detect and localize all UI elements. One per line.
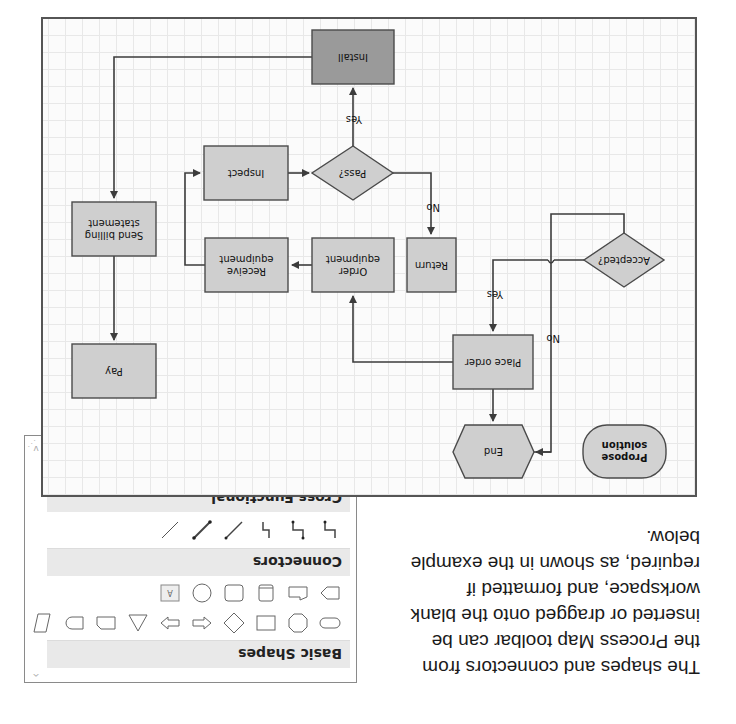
label-propose: Propose solution — [583, 425, 666, 478]
edge-label-pass-yes: Yes — [346, 114, 362, 125]
label-send-billing: Send billing statement — [72, 202, 156, 256]
edge-place-order-equip — [353, 296, 453, 362]
label-inspect: Inspect — [204, 146, 288, 200]
edge-accepted-yes — [493, 260, 584, 331]
edge-label-pass-no: No — [426, 202, 440, 213]
label-pay: Pay — [72, 344, 156, 398]
edge-label-accepted-yes: Yes — [487, 289, 503, 300]
label-install: Install — [312, 30, 394, 84]
label-end: End — [453, 425, 534, 478]
label-pass: Pass? — [312, 146, 393, 200]
label-place-order: Place order — [453, 335, 533, 389]
label-receive-equipment: Receive equipment — [205, 238, 288, 292]
page: The shapes and connectors from the Proce… — [0, 0, 736, 724]
edge-pass-no — [393, 173, 431, 234]
label-return: Return — [407, 238, 456, 292]
edge-receive-inspect — [185, 173, 205, 265]
edge-label-accepted-no: No — [546, 333, 560, 344]
label-accepted: Accepted? — [584, 233, 664, 287]
label-order-equipment: Order equipment — [312, 238, 394, 292]
